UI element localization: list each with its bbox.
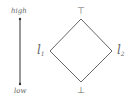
node-l2-label: l2 [117,44,125,57]
node-l2-subscript: 2 [121,50,125,57]
top-element-symbol: ⊤ [77,7,85,16]
lattice-diamond [50,19,112,82]
scale-axis [19,18,21,85]
node-l1-label: l1 [37,44,45,57]
low-label: low [14,88,26,95]
high-label: high [11,8,27,15]
bottom-element-symbol: ⊥ [77,86,85,95]
node-l1-subscript: 1 [41,50,45,57]
